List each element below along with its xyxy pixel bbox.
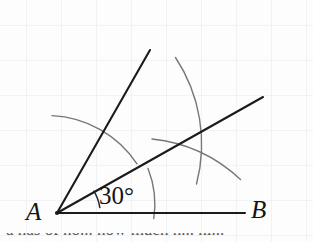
vertex-point-A [55, 211, 59, 215]
cut-off-text-row: a has of no... how much h... hi... [0, 233, 313, 242]
vertex-label-a: A [26, 199, 41, 224]
ray-label-b: B [251, 197, 266, 222]
cut-off-text: a has of no... how much h... hi... [6, 233, 224, 240]
geometry-figure: A B 30° a has of no... how much h... hi.… [0, 0, 313, 242]
angle-measure-label: 30° [99, 183, 134, 208]
